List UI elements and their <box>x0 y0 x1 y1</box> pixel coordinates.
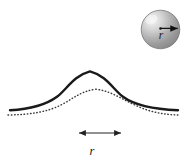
sphere-group: r <box>141 10 180 49</box>
sphere-radius-label: r <box>159 29 164 41</box>
solid-bell-curve <box>10 71 178 110</box>
r-span-label: r <box>90 144 95 158</box>
figure-canvas: r r <box>0 0 185 159</box>
physics-figure-sphere-and-distribution: r r <box>0 0 185 159</box>
dotted-bell-curve <box>8 89 178 115</box>
r-measure-group: r <box>79 133 121 158</box>
